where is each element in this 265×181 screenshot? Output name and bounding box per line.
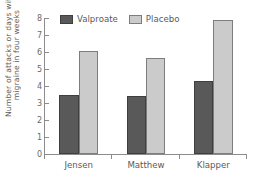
y-axis-tick-label: 6: [37, 48, 45, 57]
x-axis-category-label: Matthew: [127, 160, 164, 170]
x-axis-tick-mark: [179, 155, 180, 159]
grouped-bar-chart: Number of attacks or days with migraine …: [0, 0, 265, 181]
bar-placebo-matthew: [146, 58, 165, 154]
bars-layer: [45, 18, 247, 154]
y-axis-tick-label: 8: [37, 14, 45, 23]
x-axis-category-label: Klapper: [197, 160, 230, 170]
bar-valproate-klapper: [194, 81, 213, 154]
bar-placebo-klapper: [213, 20, 232, 154]
plot-area: 012345678: [44, 18, 247, 155]
y-axis-tick-label: 3: [37, 99, 45, 108]
x-axis-tick-mark: [111, 155, 112, 159]
x-axis-line: [44, 154, 247, 155]
bar-valproate-jensen: [59, 95, 78, 154]
x-axis-tick-mark: [246, 155, 247, 159]
x-axis-category-label: Jensen: [64, 160, 92, 170]
y-axis-tick-label: 7: [37, 31, 45, 40]
x-axis-tick-mark: [44, 155, 45, 159]
y-axis-tick-label: 2: [37, 116, 45, 125]
bar-valproate-matthew: [127, 96, 146, 154]
y-axis-tick-label: 1: [37, 133, 45, 142]
bar-placebo-jensen: [79, 51, 98, 154]
y-axis-tick-label: 5: [37, 65, 45, 74]
y-axis-tick-label: 4: [37, 82, 45, 91]
y-axis-title-line-2: migraine in four weeks: [13, 10, 22, 100]
